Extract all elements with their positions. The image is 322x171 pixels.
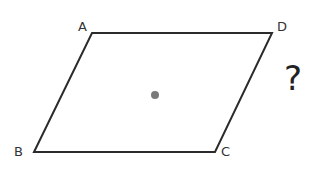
- vertex-label-c: C: [221, 144, 230, 159]
- vertex-label-b: B: [14, 144, 23, 159]
- parallelogram-diagram: A D C B ?: [0, 0, 322, 171]
- center-point: [151, 91, 159, 99]
- vertex-label-a: A: [78, 19, 87, 34]
- question-mark: ?: [284, 58, 302, 98]
- vertex-label-d: D: [277, 19, 287, 34]
